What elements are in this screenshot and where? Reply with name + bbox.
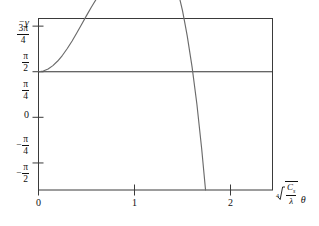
ctf-phase-chart: − γ 3π 4 π 2 π 4 0 − π 4 [0,0,319,226]
x-tick-label-0: 0 [30,198,48,208]
plot-frame [39,19,273,191]
lambda-symbol: λ [286,196,296,206]
y-tick-numerator: π [22,135,29,146]
y-tick-label-3pi-over-4: 3π 4 [11,24,29,45]
y-tick-sign: − [16,169,21,179]
y-tick-denominator: 4 [22,91,29,101]
radicand-numerator: Cs [286,183,296,196]
x-tick-label-2: 2 [222,198,240,208]
cs-subscript: s [293,188,295,194]
y-tick-denominator: 4 [22,146,29,156]
y-tick-numerator: 3π [17,24,29,35]
y-tick-label-zero: 0 [11,110,29,121]
y-tick-label-minus-pi-over-2: − π 2 [6,163,29,184]
y-tick-label-minus-pi-over-4: − π 4 [6,135,29,156]
x-axis-title: 4 Cs λ θ [276,184,306,206]
y-tick-denominator: 2 [22,63,29,73]
y-tick-numerator: π [22,163,29,174]
y-tick-numerator: π [22,80,29,91]
y-tick-label-pi-over-2: π 2 [11,52,29,73]
y-tick-value: 0 [24,109,29,120]
y-tick-label-pi-over-4: π 4 [11,80,29,101]
y-tick-denominator: 2 [22,174,29,184]
y-tick-numerator: π [22,52,29,63]
radicand: Cs λ [285,181,298,206]
radical-sign-icon [278,186,285,206]
y-tick-denominator: 4 [17,35,29,45]
fourth-root-radical-icon: 4 Cs λ [276,184,298,206]
theta-symbol: θ [301,194,306,205]
y-tick-sign: − [16,141,21,151]
plot-canvas [0,0,319,226]
x-tick-label-1: 1 [126,198,144,208]
